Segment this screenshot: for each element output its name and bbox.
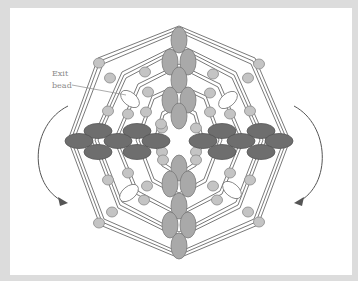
left-rotation-arrow-icon — [38, 106, 68, 206]
label-line-1: Exit — [52, 69, 69, 78]
bead-stitch-diagram: Exit bead — [0, 0, 358, 281]
label-line-2: bead — [52, 81, 72, 90]
right-rotation-arrow-icon — [294, 106, 322, 206]
leader-line — [72, 85, 126, 95]
